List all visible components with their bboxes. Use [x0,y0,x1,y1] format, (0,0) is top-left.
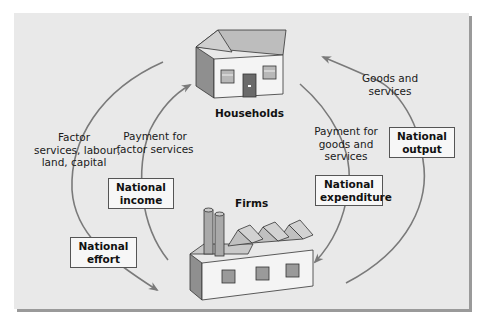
national-output-line1: National [394,130,450,143]
payment-goods-line1: Payment for [310,125,382,138]
factor-services-line3: land, capital [34,156,114,169]
firms-label: Firms [235,197,268,210]
goods-services-label: Goods and services [355,72,425,97]
national-expenditure-line1: National [320,178,378,191]
national-income-line2: income [113,194,169,207]
national-effort-line2: effort [75,253,132,266]
national-output-line2: output [394,143,450,156]
goods-services-line2: services [355,85,425,98]
house-icon [196,30,286,98]
payment-goods-line2: goods and [310,138,382,151]
payment-factor-arrow [142,85,190,260]
national-output-box: National output [389,127,455,158]
national-effort-line1: National [75,240,132,253]
goods-services-line1: Goods and [355,72,425,85]
payment-factor-line2: factor services [115,143,195,156]
households-label: Households [215,107,284,120]
national-income-line1: National [113,181,169,194]
payment-goods-label: Payment for goods and services [310,125,382,163]
national-expenditure-line2: expenditure [320,191,378,204]
payment-factor-label: Payment for factor services [115,130,195,155]
national-income-box: National income [108,178,174,209]
factor-services-line1: Factor [34,131,114,144]
factor-services-line2: services, labour, [34,144,114,157]
factor-services-label: Factor services, labour, land, capital [34,131,114,169]
national-effort-box: National effort [70,237,137,268]
payment-factor-line1: Payment for [115,130,195,143]
factory-icon [190,208,313,300]
national-expenditure-box: National expenditure [315,175,383,206]
payment-goods-line3: services [310,150,382,163]
